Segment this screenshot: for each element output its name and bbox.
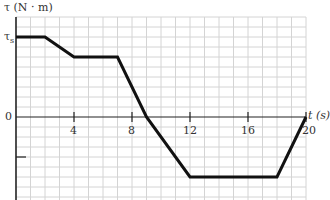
x-tick-label-16: 16 [241,125,255,136]
tau-s-label: τs [4,31,14,45]
x-tick-label-20: 20 [302,125,316,136]
x-tick-label-4: 4 [70,125,77,136]
x-axis-label: t (s) [308,110,330,121]
tau-s-subscript: s [10,36,14,45]
x-tick-label-12: 12 [183,125,197,136]
y-axis-label: τ (N · m) [4,2,53,13]
zero-label: 0 [5,111,12,122]
x-tick-label-8: 8 [128,125,135,136]
grid-lines [16,17,306,200]
